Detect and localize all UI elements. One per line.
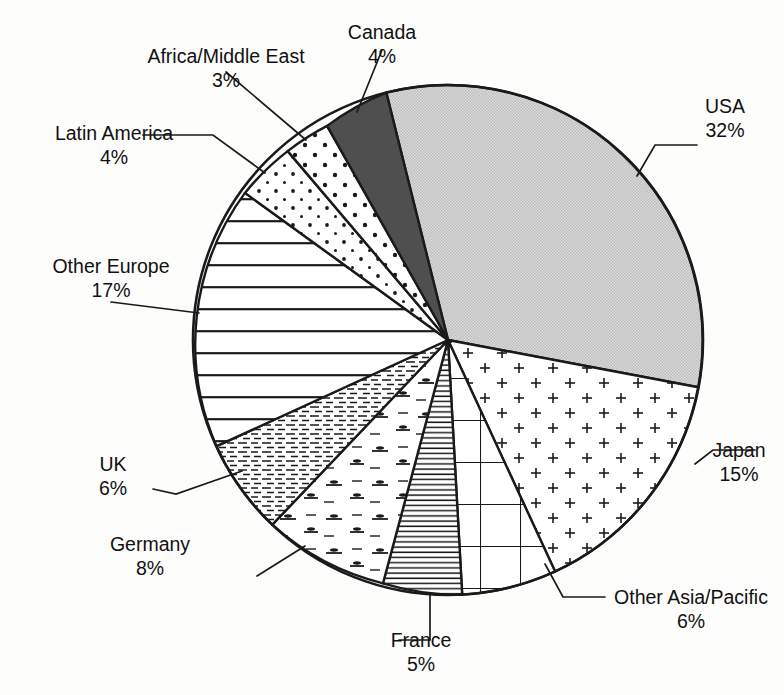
label-japan-name: Japan: [694, 438, 784, 462]
pie-chart-figure: Canada 4% Africa/Middle East 3% Latin Am…: [0, 0, 784, 695]
label-other-europe: Other Europe 17%: [0, 254, 222, 302]
label-africa-name: Africa/Middle East: [76, 44, 376, 68]
label-canada-name: Canada: [302, 20, 462, 44]
leader-other-europe: [111, 302, 199, 313]
label-other-asia-name: Other Asia/Pacific: [598, 585, 784, 609]
label-germany-name: Germany: [36, 532, 264, 556]
label-other-asia-pct: 6%: [598, 609, 784, 633]
label-germany-pct: 8%: [36, 556, 264, 580]
label-germany: Germany 8%: [36, 532, 264, 580]
label-usa-name: USA: [680, 94, 770, 118]
label-france-name: France: [356, 628, 486, 652]
label-uk-pct: 6%: [0, 476, 226, 500]
label-japan: Japan 15%: [694, 438, 784, 486]
label-latin-pct: 4%: [0, 145, 228, 169]
label-uk: UK 6%: [0, 452, 226, 500]
leader-usa: [637, 145, 697, 176]
label-other-asia-pacific: Other Asia/Pacific 6%: [598, 585, 784, 633]
label-latin-name: Latin America: [0, 121, 228, 145]
label-uk-name: UK: [0, 452, 226, 476]
leader-germany: [257, 546, 305, 576]
label-france-pct: 5%: [356, 652, 486, 676]
label-france: France 5%: [356, 628, 486, 676]
label-africa-pct: 3%: [76, 68, 376, 92]
label-usa: USA 32%: [680, 94, 770, 142]
label-usa-pct: 32%: [680, 118, 770, 142]
label-latin-america: Latin America 4%: [0, 121, 228, 169]
label-japan-pct: 15%: [694, 462, 784, 486]
label-other-europe-name: Other Europe: [0, 254, 222, 278]
label-africa-middle-east: Africa/Middle East 3%: [76, 44, 376, 92]
label-other-europe-pct: 17%: [0, 278, 222, 302]
